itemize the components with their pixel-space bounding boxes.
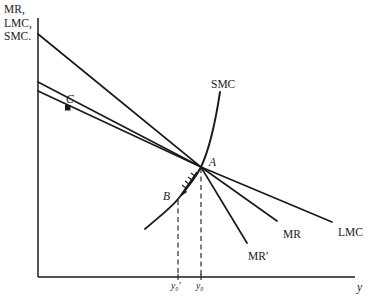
point-label-a: A bbox=[209, 156, 216, 170]
point-label-c: C bbox=[66, 93, 74, 107]
adjustment-arrow bbox=[180, 172, 197, 197]
smc-label: SMC bbox=[211, 78, 235, 92]
lmc-label: LMC bbox=[338, 226, 363, 240]
mr-label: MR bbox=[283, 228, 301, 242]
tick-label-y0: y₀ bbox=[196, 281, 204, 292]
lmc-curve bbox=[38, 91, 332, 222]
y-axis-title: MR, LMC, SMC. bbox=[4, 3, 32, 44]
x-axis-name: y bbox=[357, 281, 362, 295]
economics-diagram bbox=[0, 0, 374, 304]
tick-label-y0-prime: y₀′ bbox=[171, 281, 181, 292]
mr-prime-label: MR′ bbox=[248, 250, 268, 264]
mr-prime-curve bbox=[38, 34, 247, 243]
point-label-b: B bbox=[163, 190, 170, 204]
